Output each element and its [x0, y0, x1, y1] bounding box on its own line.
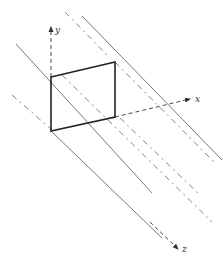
dashed-line-inner — [120, 118, 200, 195]
dashed-line-right — [115, 62, 214, 162]
projection-line-top-right — [82, 16, 222, 160]
projected-rectangle — [51, 62, 115, 131]
x-axis — [115, 99, 190, 117]
z-axis-label: z — [181, 244, 187, 254]
dashed-line-middle — [62, 75, 212, 222]
projection-diagram: y x z — [0, 0, 223, 265]
solid-projection-lines — [16, 16, 222, 238]
dashed-line-left — [12, 95, 52, 130]
x-axis-label: x — [195, 94, 200, 104]
z-axis — [150, 222, 178, 249]
dashed-line-top — [65, 12, 110, 58]
y-axis-label: y — [54, 25, 61, 35]
projection-line-top-left — [16, 44, 152, 193]
projection-line-bottom-left — [51, 131, 162, 238]
